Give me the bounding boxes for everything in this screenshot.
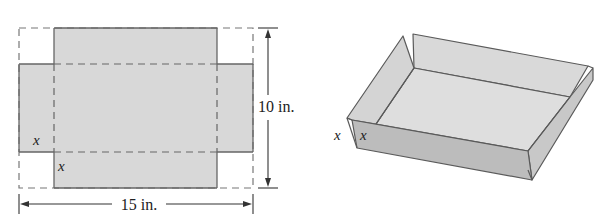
diagram-canvas: x x 10 in. 15 in. <box>0 0 604 222</box>
height-label: 10 in. <box>258 98 294 115</box>
cut-label-side: x <box>32 132 40 148</box>
width-label: 15 in. <box>121 196 157 213</box>
arrow-right-icon <box>243 201 252 207</box>
cut-label-bottom: x <box>57 158 65 174</box>
arrow-down-icon <box>265 178 271 187</box>
box-height-label-outer: x <box>333 127 341 143</box>
arrow-left-icon <box>20 201 29 207</box>
box-height-label-inner: x <box>359 127 367 143</box>
net-diagram: x x 10 in. 15 in. <box>19 28 294 214</box>
box-diagram <box>347 34 593 180</box>
arrow-up-icon <box>265 29 271 38</box>
